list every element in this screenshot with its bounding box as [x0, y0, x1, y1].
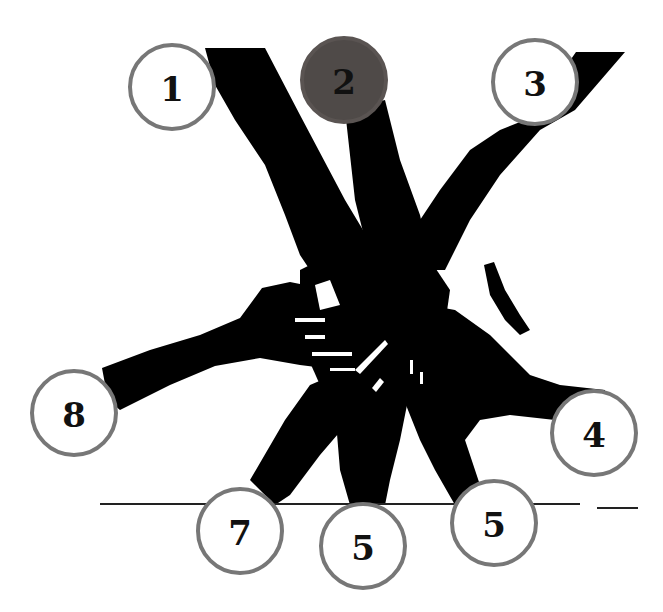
hands-diagram: 1 2 3 4 5 5 7 8 [0, 0, 663, 612]
badge-8: 8 [30, 369, 118, 457]
badge-5-center: 5 [319, 502, 407, 590]
badge-4: 4 [550, 389, 638, 477]
badge-2-label: 2 [332, 65, 356, 99]
baseline-right [597, 507, 638, 509]
badge-2-highlighted: 2 [300, 36, 388, 124]
badge-5-center-label: 5 [351, 531, 375, 565]
badge-3: 3 [491, 38, 579, 126]
badge-5-right: 5 [450, 479, 538, 567]
badge-3-label: 3 [523, 67, 547, 101]
badge-8-label: 8 [62, 398, 86, 432]
badge-4-label: 4 [582, 418, 606, 452]
badge-5-right-label: 5 [482, 508, 506, 542]
badge-1: 1 [128, 43, 216, 131]
arm-4-thumb [484, 262, 530, 335]
badge-7-label: 7 [228, 516, 252, 550]
badge-7: 7 [196, 487, 284, 575]
badge-1-label: 1 [160, 72, 184, 106]
